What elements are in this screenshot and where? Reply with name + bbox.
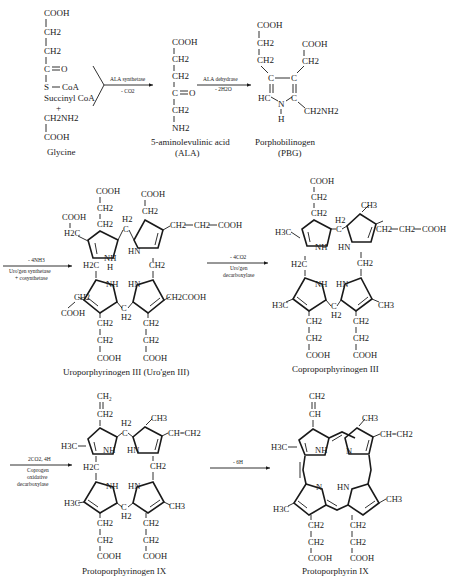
label-h3c: H3C: [273, 504, 289, 514]
svg-text:O: O: [189, 88, 196, 98]
label-ch2: CH2: [143, 518, 159, 528]
byproduct-label: 2CO2, 4H: [28, 456, 51, 462]
coproporphyrinogen-name: Coproporphyrinogen III: [292, 364, 379, 374]
label-cooh: COOH: [218, 220, 242, 230]
label-cooh: COOH: [44, 8, 70, 18]
arrow-protogen-oxidase: - 6H: [210, 459, 270, 468]
label-ch2: CH2: [97, 518, 113, 528]
enzyme-label: Uro'gen synthetase: [9, 268, 51, 274]
label-ch2: CH2: [353, 316, 369, 326]
label-nh2: NH2: [172, 123, 190, 133]
label-cooh: COOH: [302, 39, 328, 49]
label-ch2: CH2: [311, 208, 327, 218]
label-ch2: CH2: [399, 224, 415, 234]
label-ch2: CH2: [97, 203, 113, 213]
label-h3c: H3C: [64, 498, 80, 508]
label-ch2: CH2: [170, 220, 186, 230]
label-cooh: COOH: [172, 37, 198, 47]
label-ch2: CH2: [353, 333, 369, 343]
label-c: C: [336, 224, 342, 234]
protoporphyrinogen-ix-structure: CH₂ CH2 CH3 H3C H2 C NH HN CH=CH2 H2C CH…: [61, 391, 201, 576]
label-ch2: CH2: [74, 292, 90, 302]
label-ch2: CH2: [44, 46, 61, 56]
label-hn: HN: [338, 242, 350, 252]
label-h3c: H3C: [275, 227, 291, 237]
enzyme-label: + cosynthetase: [15, 275, 48, 281]
label-ch2: CH2: [308, 520, 324, 530]
label-ch2: CH2: [150, 461, 166, 471]
label-c: C: [291, 73, 297, 83]
label-cooh: COOH: [257, 20, 283, 30]
label-ch2: CH2: [311, 192, 327, 202]
label-n: N: [346, 446, 352, 456]
label-ch2: CH2: [376, 224, 392, 234]
label-ch3: CH3: [151, 413, 167, 423]
label-h2: H2: [121, 312, 131, 322]
label-nh: NH: [315, 242, 327, 252]
label-cooh: COOH: [97, 353, 121, 363]
label-cooh: COOH: [44, 132, 70, 142]
label-ch2: CH2: [172, 71, 189, 81]
label-ch-ch2: CH=CH2: [380, 429, 413, 439]
label-h2c: H2C: [291, 259, 307, 269]
label-cooh: COOH: [306, 350, 330, 360]
label-h2c: H2C: [64, 228, 80, 238]
label-ch2cooh: CH2COOH: [166, 292, 206, 302]
label-nh: NH: [106, 279, 118, 289]
label-ch2: CH2: [97, 335, 113, 345]
label-ch2: CH2: [357, 258, 373, 268]
enzyme-label: ALA dehydrase: [203, 76, 238, 82]
protoporphyrin-ix-structure: CH2 CH CH3 H3C NH N CH=CH2 N HN H3C CH3 …: [271, 391, 413, 576]
label-ch2: CH2: [172, 105, 189, 115]
heme-pathway-diagram: COOH CH2 CH2 C O S CoA Succinyl CoA + CH…: [0, 0, 464, 586]
label-ch3: CH3: [386, 494, 402, 504]
enzyme-label: Coprogen: [27, 467, 49, 473]
svg-text:O: O: [61, 64, 68, 74]
label-h3c: H3C: [271, 442, 287, 452]
label-cooh: COOH: [141, 189, 165, 199]
label-cooh: COOH: [422, 224, 446, 234]
label-cooh: COOH: [308, 553, 332, 563]
ala-structure: COOH CH2 CH2 C O CH2 NH2 5-aminolevulini…: [151, 37, 230, 158]
label-h: H: [107, 262, 113, 272]
label-hn: HN: [337, 482, 349, 492]
label-h2c: H2C: [83, 260, 99, 270]
pbg-abbr: (PBG): [278, 148, 302, 158]
label-cooh: COOH: [62, 212, 86, 222]
label-nh: NH: [315, 279, 327, 289]
arrow-urogen-synthetase: - 4NH3 Uro'gen synthetase + cosynthetase: [3, 257, 72, 281]
label-ch2: CH2: [97, 318, 113, 328]
byproduct-label: - 4NH3: [28, 257, 45, 263]
label-ch3: CH3: [362, 413, 378, 423]
label-nh: NH: [103, 445, 115, 455]
label-h: H: [278, 114, 285, 124]
arrow-coprogen-oxidase: 2CO2, 4H Coprogen oxidative decarboxylas…: [10, 456, 72, 487]
svg-text:COOH: COOH: [310, 176, 334, 186]
arrow-urogen-decarboxylase: - 4CO2 Uro'gen decarboxylase: [207, 254, 268, 278]
label-ch2nh2: CH2NH2: [44, 113, 79, 123]
label-n: N: [316, 482, 322, 492]
label-s: S: [44, 82, 49, 92]
label-ch3: CH3: [361, 200, 377, 210]
label-ch2: CH2: [143, 535, 159, 545]
ala-abbr: (ALA): [175, 148, 200, 158]
label-h2c: H2C: [83, 462, 99, 472]
coproporphyrinogen-iii-structure: COOH CH2 CH2 CH3 H3C H2 C NH HN CH2 CH2 …: [272, 176, 446, 374]
label-ch2: CH2: [257, 38, 274, 48]
label-ch2nh2: CH2NH2: [304, 106, 339, 116]
label-h3c: H3C: [61, 441, 77, 451]
label-c: C: [123, 224, 129, 234]
label-c: C: [44, 64, 50, 74]
label-ch2: CH2: [257, 55, 274, 65]
label-hn: HN: [128, 279, 140, 289]
label-hn: HN: [128, 246, 140, 256]
label-ch2: CH2: [306, 316, 322, 326]
plus-sign: +: [56, 103, 61, 113]
succinyl-coa-name: Succinyl CoA: [44, 93, 95, 103]
label-ch2: CH2: [308, 537, 324, 547]
label-ch2: CH2: [142, 206, 158, 216]
ala-name: 5-aminolevulinic acid: [151, 137, 230, 147]
label-h3c: H3C: [272, 300, 288, 310]
label-c: C: [268, 73, 274, 83]
label-ch2: CH2: [350, 520, 366, 530]
